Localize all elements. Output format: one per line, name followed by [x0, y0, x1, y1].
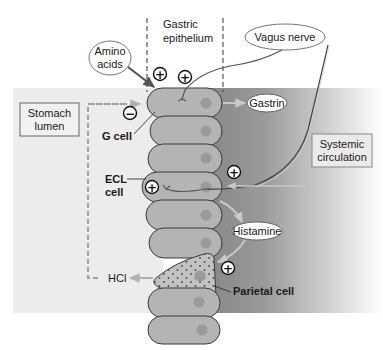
svg-text:+: +	[155, 68, 165, 82]
g-cell-label: G cell	[102, 130, 132, 142]
plus-sign-gastrin-ecl: +	[228, 166, 241, 180]
systemic-circulation-label-2: circulation	[317, 151, 367, 163]
plus-sign-histamine-parietal: +	[222, 262, 235, 276]
histamine-label: Histamine	[233, 225, 282, 237]
minus-sign-hcl: −	[124, 107, 137, 121]
plus-sign-vagus-ecl: +	[146, 181, 159, 195]
amino-acids-label-2: acids	[97, 58, 123, 70]
nucleus	[201, 238, 212, 249]
nucleus	[197, 325, 208, 336]
svg-text:+: +	[180, 71, 190, 85]
nucleus	[201, 98, 212, 109]
stomach-lumen-label: Stomach	[28, 107, 71, 119]
svg-text:−: −	[125, 107, 135, 121]
plus-sign-amino: +	[154, 68, 167, 82]
stomach-lumen-label-2: lumen	[35, 120, 65, 132]
nucleus	[201, 153, 212, 164]
nucleus	[201, 182, 212, 193]
svg-text:+: +	[223, 262, 233, 276]
epithelium-label-2: epithelium	[163, 32, 213, 44]
ecl-cell-label: ECL	[105, 173, 127, 185]
systemic-circulation-region	[200, 88, 383, 313]
nucleus	[195, 271, 206, 282]
gastric-acid-diagram: Gastric epithelium Amino ac	[0, 0, 383, 350]
ecl-cell-label-2: cell	[105, 186, 123, 198]
epithelium-label: Gastric	[163, 18, 198, 30]
hcl-label: HCl	[108, 272, 126, 284]
systemic-circulation-label: Systemic	[320, 138, 365, 150]
parietal-cell-label: Parietal cell	[233, 285, 294, 297]
plus-sign-vagus-g: +	[179, 71, 192, 85]
nucleus	[201, 210, 212, 221]
epithelial-cell	[148, 316, 220, 344]
epithelial-cells	[142, 88, 222, 344]
epithelial-cell	[148, 288, 220, 318]
nucleus	[194, 297, 205, 308]
gastrin-label: Gastrin	[249, 97, 284, 109]
nucleus	[201, 126, 212, 137]
amino-acids-arrow	[128, 67, 154, 87]
amino-acids-label: Amino	[94, 45, 125, 57]
svg-text:+: +	[229, 166, 239, 180]
svg-text:+: +	[147, 181, 157, 195]
vagus-nerve-label: Vagus nerve	[255, 31, 316, 43]
